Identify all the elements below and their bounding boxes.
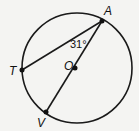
chord-AT	[22, 21, 102, 70]
label-T: T	[9, 64, 18, 78]
point-T	[20, 68, 25, 73]
point-A	[100, 19, 105, 24]
circle-diagram: A T V O 31°	[0, 0, 139, 131]
label-A: A	[103, 4, 112, 18]
label-O: O	[64, 59, 73, 73]
point-V	[44, 110, 49, 115]
angle-label: 31°	[70, 38, 87, 50]
label-V: V	[37, 116, 46, 130]
